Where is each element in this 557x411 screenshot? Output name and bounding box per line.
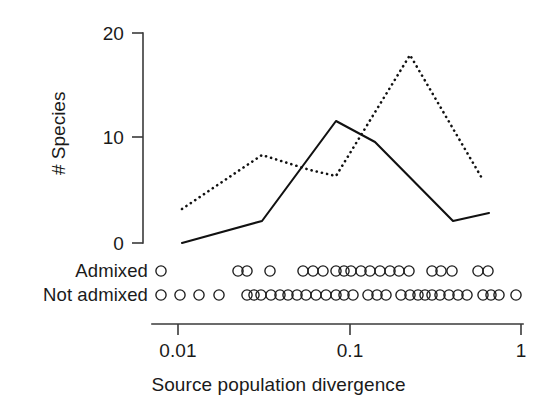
- y-tick-label-20: 20: [78, 24, 124, 43]
- y-axis-title: # Species: [48, 92, 70, 175]
- y-tick-label-10: 10: [78, 128, 124, 147]
- x-axis: [152, 324, 523, 335]
- strip-row-not-admixed: [156, 290, 521, 300]
- figure-panel: 20 10 0 # Species Admixed Not admixed 0.…: [0, 0, 557, 411]
- y-axis: [132, 33, 143, 243]
- plot-svg: [0, 0, 557, 411]
- strip-label-not-admixed: Not admixed: [20, 286, 148, 305]
- strip-row-admixed: [156, 266, 493, 276]
- x-axis-title: Source population divergence: [0, 375, 557, 394]
- x-tick-label-0-1: 0.1: [315, 341, 385, 360]
- y-tick-label-0: 0: [78, 234, 124, 253]
- x-tick-label-1: 1: [491, 341, 551, 360]
- x-tick-label-0-01: 0.01: [138, 341, 218, 360]
- series-line-not-admixed: [182, 121, 489, 243]
- strip-label-admixed: Admixed: [20, 262, 148, 281]
- series-line-admixed: [182, 55, 483, 209]
